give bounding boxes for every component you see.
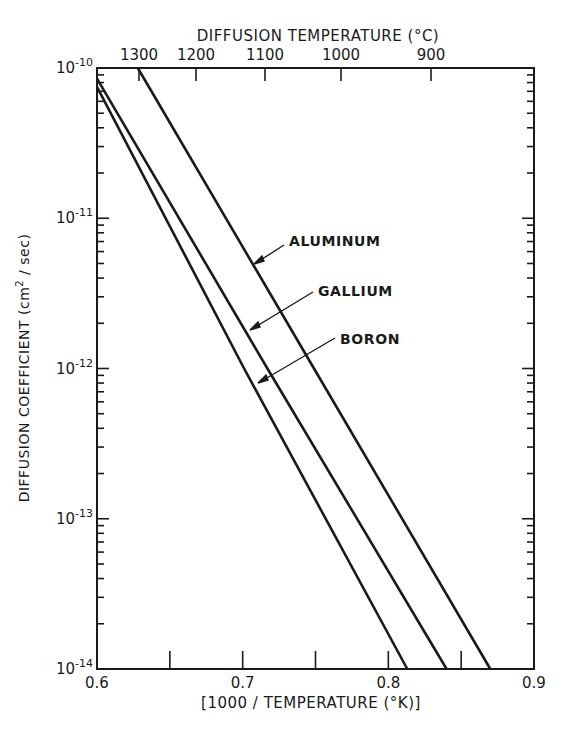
x-tick-label: 0.6 — [85, 674, 109, 692]
arrowhead-gallium-icon — [250, 322, 260, 330]
axis-ticks: 0.60.70.80.9130012001100100090010-1010-1… — [56, 46, 546, 692]
y-axis-title-main: DIFFUSION COEFFICIENT (cm — [16, 287, 32, 503]
x-tick-label: 0.9 — [522, 674, 546, 692]
x-tick-label: 0.7 — [231, 674, 255, 692]
series-line-boron — [97, 87, 407, 669]
label-aluminum: ALUMINUM — [289, 233, 381, 249]
arrow-boron — [260, 338, 335, 382]
top-axis-title: DIFFUSION TEMPERATURE (°C) — [197, 27, 439, 45]
label-gallium: GALLIUM — [318, 283, 393, 299]
arrowhead-boron-icon — [258, 375, 268, 383]
top-tick-label: 900 — [417, 46, 446, 64]
y-axis-title: DIFFUSION COEFFICIENT (cm2 / sec) — [14, 234, 32, 503]
arrowhead-aluminum-icon — [254, 256, 264, 264]
y-tick-label: 10-11 — [56, 206, 93, 227]
x-tick-label: 0.8 — [376, 674, 400, 692]
top-tick-label: 1300 — [120, 46, 158, 64]
y-axis-title-sup: 2 — [14, 280, 25, 287]
y-axis-title-end: / sec) — [16, 234, 32, 280]
label-boron: BORON — [340, 331, 400, 347]
y-tick-label: 10-12 — [56, 357, 93, 378]
top-tick-label: 1000 — [322, 46, 360, 64]
top-tick-label: 1200 — [177, 46, 215, 64]
arrow-gallium — [252, 292, 313, 329]
series-line-gallium — [97, 79, 447, 669]
top-tick-label: 1100 — [246, 46, 284, 64]
y-tick-label: 10-10 — [56, 56, 93, 77]
bottom-axis-title: [1000 / TEMPERATURE (°K)] — [201, 694, 421, 712]
series-line-aluminum — [138, 68, 491, 669]
y-tick-label: 10-13 — [56, 507, 93, 528]
data-lines — [97, 68, 490, 669]
chart-figure: 0.60.70.80.9130012001100100090010-1010-1… — [0, 0, 569, 729]
